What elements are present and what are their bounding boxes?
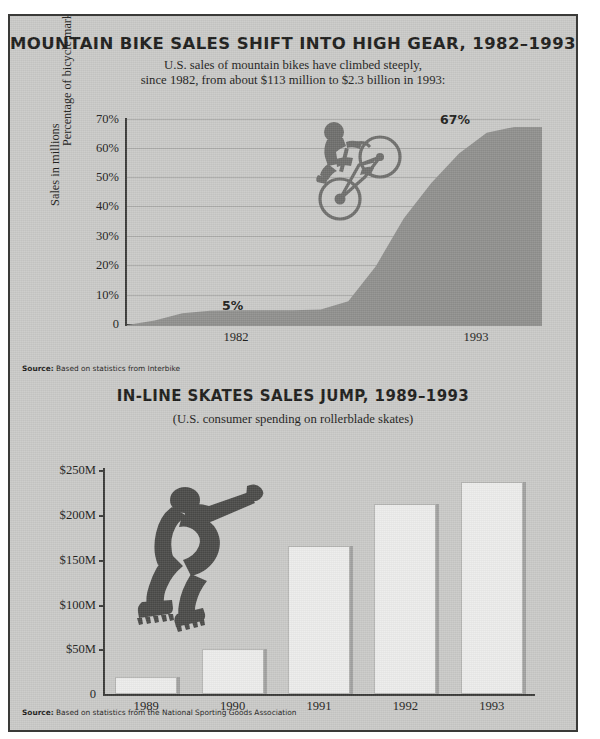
chart2-ytick: $200M [60, 508, 96, 523]
chart2-xtick: 1991 [306, 699, 331, 714]
chart2-y-axis [103, 468, 105, 696]
mountain-biker-silhouette-icon [310, 117, 410, 227]
inline-skater-silhouette-icon [125, 482, 285, 632]
chart2-ytick: $250M [60, 463, 96, 478]
chart1-subtitle-line1: U.S. sales of mountain bikes have climbe… [10, 58, 576, 73]
chart1-source-text: Based on statistics from Interbike [56, 364, 180, 373]
bar-1991 [288, 546, 350, 694]
chart1-ytick: 0 [113, 317, 119, 332]
infographic-page: MOUNTAIN BIKE SALES SHIFT INTO HIGH GEAR… [0, 0, 600, 739]
tick-mark [99, 470, 104, 472]
chart1-end-value-label: 67% [440, 112, 470, 127]
chart1-subtitle-line2: since 1982, from about $113 million to $… [10, 73, 576, 88]
chart1-ytick: 70% [96, 112, 119, 127]
infographic-frame: MOUNTAIN BIKE SALES SHIFT INTO HIGH GEAR… [8, 14, 578, 732]
bar-1993 [461, 482, 523, 694]
tick-mark [99, 515, 104, 517]
chart2-ytick: $50M [66, 642, 96, 657]
tick-mark [99, 560, 104, 562]
chart2-ytick: $150M [60, 553, 96, 568]
chart1-ytick: 20% [96, 258, 119, 273]
chart1-source-label: Source: [22, 364, 54, 373]
chart2-x-axis [103, 694, 535, 696]
bar-1990 [202, 649, 264, 694]
chart1-source: Source: Based on statistics from Interbi… [22, 364, 180, 373]
chart1-title: MOUNTAIN BIKE SALES SHIFT INTO HIGH GEAR… [10, 34, 576, 53]
chart2-source: Source: Based on statistics from the Nat… [22, 708, 296, 717]
chart1-plot-area: 70% 60% 50% 40% 30% 20% 10% 0 [125, 118, 540, 330]
chart2-source-text: Based on statistics from the National Sp… [56, 708, 296, 717]
chart2-xtick: 1993 [479, 699, 504, 714]
bar-1989 [115, 677, 177, 694]
chart1-ytick: 60% [96, 141, 119, 156]
bar-1992 [374, 504, 436, 694]
tick-mark [99, 649, 104, 651]
chart1-start-value-label: 5% [222, 298, 243, 313]
chart2-source-label: Source: [22, 708, 54, 717]
chart1-ytick: 40% [96, 199, 119, 214]
chart2-ytick: $100M [60, 598, 96, 613]
chart1-xtick: 1982 [224, 330, 249, 345]
chart2-ytick: 0 [90, 687, 96, 702]
chart2-plot-area: $250M $200M $150M $100M $50M 0 [103, 468, 535, 700]
chart2-y-axis-title: Sales in millions [48, 123, 63, 206]
chart1-ytick: 10% [96, 288, 119, 303]
chart2-title: IN-LINE SKATES SALES JUMP, 1989–1993 [10, 387, 576, 405]
chart1-xtick: 1993 [464, 330, 489, 345]
chart1-ytick: 30% [96, 229, 119, 244]
chart2-xtick: 1992 [393, 699, 418, 714]
chart1-ytick: 50% [96, 170, 119, 185]
chart2-subtitle: (U.S. consumer spending on rollerblade s… [10, 412, 576, 427]
tick-mark [99, 605, 104, 607]
